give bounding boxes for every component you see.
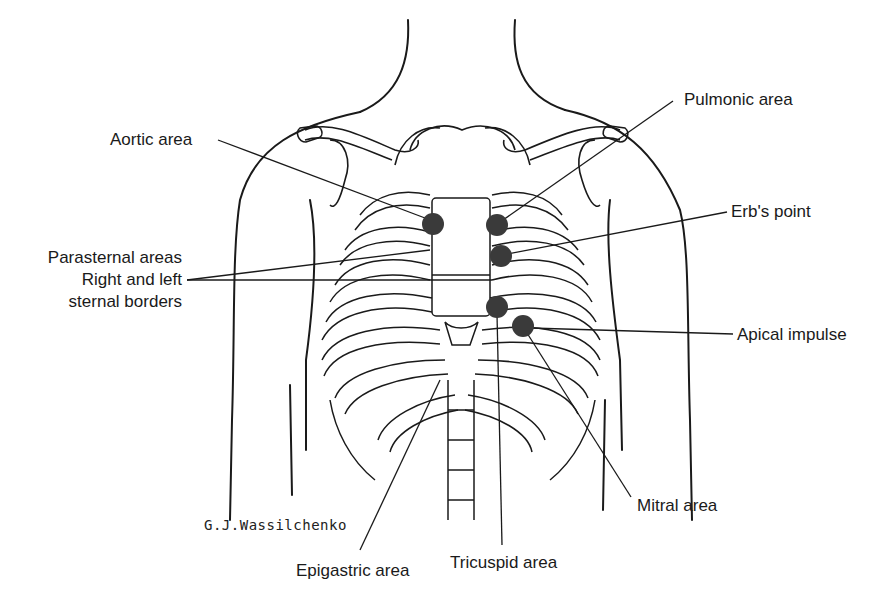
torso-left xyxy=(230,112,360,520)
label-parasternal-1: Parasternal areas xyxy=(0,248,182,268)
label-erbs-point: Erb's point xyxy=(731,202,811,222)
neck-right xyxy=(514,20,565,110)
marker-mitral xyxy=(512,315,534,337)
label-parasternal-2: Right and left xyxy=(0,270,182,290)
marker-pulmonic xyxy=(486,214,508,236)
leader-tricuspid xyxy=(497,314,502,545)
leader-epigastric xyxy=(360,380,440,550)
leader-apical xyxy=(530,328,733,334)
marker-tricuspid xyxy=(486,296,508,318)
leader-erbs xyxy=(507,212,727,254)
label-tricuspid-area: Tricuspid area xyxy=(450,553,557,573)
label-pulmonic-area: Pulmonic area xyxy=(684,90,793,110)
label-mitral-area: Mitral area xyxy=(637,496,717,516)
neck-left xyxy=(360,20,408,112)
marker-aortic xyxy=(422,213,444,235)
marker-erbs xyxy=(490,245,512,267)
label-epigastric-area: Epigastric area xyxy=(296,561,409,581)
label-apical-impulse: Apical impulse xyxy=(737,325,847,345)
label-aortic-area: Aortic area xyxy=(110,130,192,150)
torso-right xyxy=(565,110,692,520)
label-parasternal-3: sternal borders xyxy=(0,292,182,312)
leader-mitral xyxy=(527,333,631,497)
artist-signature: G.J.Wassilchenko xyxy=(204,517,347,533)
